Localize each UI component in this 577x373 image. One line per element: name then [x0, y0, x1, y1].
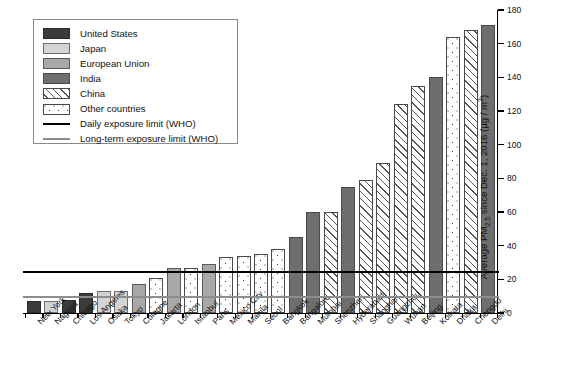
- y-tick-label: 160: [507, 39, 521, 48]
- y-tick-label: 140: [507, 73, 521, 82]
- legend-swatch-in: [43, 73, 70, 84]
- bar-shanghai: [359, 180, 373, 313]
- y-tick-label: 100: [507, 140, 521, 149]
- legend-label-us: United States: [80, 29, 138, 39]
- y-tick-label: 180: [507, 6, 521, 15]
- legend-label-in: India: [80, 74, 101, 84]
- y-tick-mark: [498, 43, 504, 44]
- y-tick-label: 120: [507, 107, 521, 116]
- legend-label-ot: Other countries: [80, 104, 146, 114]
- y-axis-title: Average PM2.5 since Dec. 1, 2016 (µg / m…: [477, 94, 491, 278]
- legend-item-in: India: [43, 71, 237, 86]
- y-tick-mark: [498, 178, 504, 179]
- reference-line-longterm: [23, 296, 499, 298]
- bar-kolkata: [429, 77, 443, 313]
- bar-hyderabad: [341, 187, 355, 313]
- legend-item-jp: Japan: [43, 41, 237, 56]
- bar-bangkok: [271, 249, 285, 313]
- legend-label-longterm: Long-term exposure limit (WHO): [80, 134, 218, 144]
- y-tick-mark: [498, 77, 504, 78]
- legend-label-jp: Japan: [80, 44, 106, 54]
- y-tick-label: 40: [507, 241, 516, 250]
- y-tick-mark: [498, 211, 504, 212]
- legend-swatch-cn: [43, 88, 70, 99]
- reference-line-daily: [23, 271, 499, 273]
- legend-swatch-us: [43, 28, 70, 39]
- legend-item-longterm: Long-term exposure limit (WHO): [43, 132, 237, 147]
- legend-swatch-longterm: [43, 138, 70, 140]
- chart-legend: United StatesJapanEuropean UnionIndiaChi…: [33, 19, 238, 144]
- x-tick-mark: [25, 313, 26, 318]
- bar-beijing: [411, 86, 425, 313]
- y-tick-mark: [498, 110, 504, 111]
- bar-new-york: [27, 301, 41, 313]
- legend-swatch-daily: [43, 123, 70, 125]
- legend-item-us: United States: [43, 26, 237, 41]
- legend-label-eu: European Union: [80, 59, 149, 69]
- y-tick-label: 60: [507, 208, 516, 217]
- legend-swatch-jp: [43, 43, 70, 54]
- y-tick-mark: [498, 9, 504, 10]
- y-tick-mark: [498, 245, 504, 246]
- legend-swatch-ot: [43, 104, 70, 115]
- legend-label-daily: Daily exposure limit (WHO): [80, 119, 196, 129]
- legend-item-eu: European Union: [43, 56, 237, 71]
- y-tick-mark: [498, 279, 504, 280]
- bar-wuhan: [394, 104, 408, 313]
- legend-swatch-eu: [43, 58, 70, 69]
- bar-mexico-city: [219, 257, 233, 313]
- pm25-bar-chart: 020406080100120140160180 New YorkNagoyaC…: [0, 0, 577, 373]
- legend-item-ot: Other countries: [43, 101, 237, 116]
- legend-item-cn: China: [43, 86, 237, 101]
- y-tick-mark: [498, 144, 504, 145]
- y-tick-label: 80: [507, 174, 516, 183]
- y-axis-line: [497, 10, 498, 313]
- y-tick-label: 20: [507, 275, 516, 284]
- legend-item-daily: Daily exposure limit (WHO): [43, 117, 237, 132]
- legend-label-cn: China: [80, 89, 105, 99]
